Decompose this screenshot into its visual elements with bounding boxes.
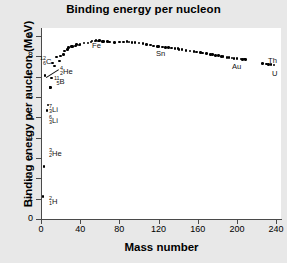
lithium6-label: 63Li bbox=[49, 115, 58, 126]
data-point bbox=[236, 57, 239, 60]
y-axis-tick bbox=[36, 77, 41, 78]
deuterium-label: 21H bbox=[49, 196, 57, 207]
y-axis-tick bbox=[36, 117, 41, 118]
y-axis-tick bbox=[36, 138, 41, 139]
data-point bbox=[62, 53, 65, 56]
data-point bbox=[49, 86, 52, 89]
x-axis-line bbox=[41, 219, 282, 220]
y-axis-tick bbox=[36, 97, 41, 98]
y-axis-tick bbox=[36, 199, 41, 200]
y-axis-tick-label: 6 bbox=[19, 91, 33, 101]
gold-label: Au bbox=[232, 63, 241, 71]
x-axis-tick-label: 160 bbox=[183, 224, 213, 234]
data-point bbox=[233, 57, 236, 60]
y-axis-tick-label: 8 bbox=[19, 50, 33, 60]
helium4-label: 42He bbox=[60, 66, 73, 77]
y-axis-tick-label: 2 bbox=[19, 172, 33, 182]
data-point bbox=[145, 43, 148, 46]
carbon12-label: 126C bbox=[40, 56, 51, 67]
x-axis-tick-label: 240 bbox=[261, 224, 287, 234]
chart-figure: Binding energy per nucleon Binding energ… bbox=[0, 0, 287, 263]
data-point bbox=[42, 195, 45, 198]
y-axis-tick-label: 0 bbox=[19, 213, 33, 223]
boron11-label: 115B bbox=[54, 76, 65, 87]
data-point bbox=[244, 58, 247, 61]
y-axis-tick-label: 4 bbox=[19, 132, 33, 142]
chart-title: Binding energy per nucleon bbox=[0, 3, 287, 15]
data-point bbox=[66, 48, 69, 51]
y-axis-tick-label: 7 bbox=[19, 71, 33, 81]
y-axis-tick bbox=[36, 158, 41, 159]
tin-label: Sn bbox=[156, 50, 165, 58]
y-axis-tick bbox=[36, 36, 41, 37]
x-axis-tick-label: 200 bbox=[222, 224, 252, 234]
data-point bbox=[185, 49, 188, 52]
x-axis-tick-label: 120 bbox=[144, 224, 174, 234]
thorium-label: Th bbox=[268, 57, 277, 65]
data-point bbox=[46, 109, 49, 112]
x-axis-tick-label: 0 bbox=[26, 224, 56, 234]
lithium7-label: 73Li bbox=[49, 104, 58, 115]
y-axis-title-container: Binding energy per nucleon (MeV) bbox=[0, 0, 20, 230]
y-axis-tick bbox=[36, 178, 41, 179]
data-point bbox=[205, 52, 208, 55]
x-axis-tick-label: 80 bbox=[104, 224, 134, 234]
data-point bbox=[122, 41, 125, 44]
y-axis-tick-label: 5 bbox=[19, 111, 33, 121]
x-axis-tick-label: 40 bbox=[65, 224, 95, 234]
data-point bbox=[152, 45, 155, 48]
data-point bbox=[142, 42, 145, 45]
iron-label: Fe bbox=[92, 42, 101, 50]
data-point bbox=[261, 62, 264, 65]
uranium-label: U bbox=[272, 70, 277, 78]
data-point bbox=[102, 40, 105, 43]
data-point bbox=[55, 56, 58, 59]
y-axis-tick-label: 9 bbox=[19, 30, 33, 40]
x-axis-title: Mass number bbox=[41, 241, 282, 253]
data-point bbox=[157, 45, 160, 48]
y-axis-tick-label: 1 bbox=[19, 193, 33, 203]
data-point bbox=[113, 41, 116, 44]
helium3-label: 32He bbox=[49, 148, 62, 159]
data-point bbox=[58, 60, 61, 63]
y-axis-tick-label: 3 bbox=[19, 152, 33, 162]
